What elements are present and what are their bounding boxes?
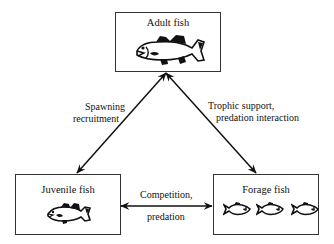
node-forage-fish-label: Forage fish <box>214 184 318 195</box>
node-juvenile-fish: Juvenile fish <box>15 174 121 235</box>
edge-label-competition-line2: predation <box>147 211 185 223</box>
forage-fish-icon <box>256 201 284 217</box>
edge-label-spawning-line2: recruitment <box>63 113 119 125</box>
edge-label-spawning: Spawning recruitment <box>63 101 125 125</box>
node-juvenile-fish-label: Juvenile fish <box>16 184 120 195</box>
node-adult-fish-label: Adult fish <box>116 17 220 28</box>
edge-label-trophic-line2: predation interaction <box>216 112 299 124</box>
node-adult-fish: Adult fish <box>115 12 221 72</box>
small-bass-icon <box>46 202 92 224</box>
edge-label-spawning-line1: Spawning <box>63 101 125 113</box>
large-bass-icon <box>134 33 206 67</box>
edge-label-trophic: Trophic support, predation interaction <box>208 100 299 124</box>
edge-label-trophic-line1: Trophic support, <box>208 100 299 112</box>
forage-fish-icon <box>223 201 251 217</box>
edge-label-competition-line1: Competition, <box>140 189 193 201</box>
forage-fish-icon <box>291 201 319 217</box>
node-forage-fish: Forage fish <box>213 174 319 235</box>
